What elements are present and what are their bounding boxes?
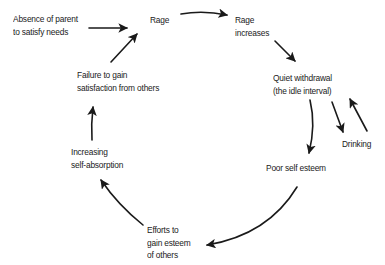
node-absence-of-parent: Absence of parent to satisfy needs — [13, 13, 78, 38]
node-increasing-self-absorption: Increasing self-absorption — [71, 146, 123, 171]
node-rage: Rage — [150, 14, 169, 27]
arrow-efforts-to-self-absorption — [101, 180, 143, 225]
node-line: Poor self esteem — [266, 162, 326, 175]
node-quiet-withdrawal: Quiet withdrawal (the idle interval) — [273, 72, 332, 97]
node-line: Drinking — [342, 138, 371, 151]
arrows-layer — [0, 0, 385, 265]
node-line: Quiet withdrawal — [273, 72, 332, 85]
node-line: Increasing — [71, 146, 123, 159]
node-line: (the idle interval) — [273, 85, 332, 98]
arrow-poor-self-esteem-to-efforts — [207, 187, 297, 245]
node-efforts-to-gain-esteem: Efforts to gain esteem of others — [147, 224, 191, 262]
arrow-rage-increases-to-withdrawal — [275, 41, 295, 61]
arrow-drinking-to-withdrawal — [350, 99, 367, 131]
node-line: gain esteem — [147, 237, 191, 250]
arrow-self-absorption-to-failure — [92, 107, 93, 140]
arrow-rage-to-rage-increases — [181, 12, 227, 15]
node-poor-self-esteem: Poor self esteem — [266, 162, 326, 175]
node-rage-increases: Rage increases — [235, 14, 269, 39]
cycle-diagram: Absence of parent to satisfy needs Rage … — [0, 0, 385, 265]
node-line: of others — [147, 249, 191, 262]
arrow-withdrawal-to-drinking — [332, 102, 343, 132]
node-line: Failure to gain — [77, 69, 159, 82]
node-line: Absence of parent — [13, 13, 78, 26]
node-drinking: Drinking — [342, 138, 371, 151]
arrow-failure-to-rage — [111, 34, 137, 62]
node-line: Rage — [235, 14, 269, 27]
arrow-withdrawal-to-poor-self-esteem — [309, 100, 313, 153]
node-line: increases — [235, 27, 269, 40]
node-failure-to-gain-satisfaction: Failure to gain satisfaction from others — [77, 69, 159, 94]
node-line: Rage — [150, 14, 169, 27]
node-line: self-absorption — [71, 159, 123, 172]
node-line: to satisfy needs — [13, 26, 78, 39]
node-line: Efforts to — [147, 224, 191, 237]
node-line: satisfaction from others — [77, 82, 159, 95]
